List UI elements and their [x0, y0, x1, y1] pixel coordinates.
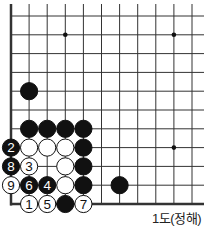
move-number: 3	[25, 159, 33, 174]
move-number: 2	[7, 140, 15, 155]
star-point-icon	[172, 33, 177, 38]
move-number: 5	[43, 197, 51, 212]
star-point-icon	[172, 145, 177, 150]
black-stone	[39, 120, 56, 137]
diagram-caption: 1도(정해)	[152, 208, 201, 226]
black-stone	[75, 177, 92, 194]
move-number: 9	[7, 178, 15, 193]
black-stone	[111, 177, 128, 194]
white-stone	[39, 139, 56, 156]
move-number: 7	[80, 197, 88, 212]
black-stone	[21, 83, 38, 100]
go-board-diagram: 283964157	[0, 0, 206, 226]
move-number: 4	[43, 178, 51, 193]
black-stone	[75, 120, 92, 137]
move-number: 6	[25, 178, 33, 193]
black-stone	[75, 158, 92, 175]
white-stone	[57, 177, 74, 194]
star-point-icon	[63, 33, 68, 38]
black-stone	[21, 120, 38, 137]
white-stone	[21, 139, 38, 156]
move-number: 1	[25, 197, 33, 212]
white-stone	[57, 139, 74, 156]
black-stone	[57, 120, 74, 137]
black-stone	[75, 139, 92, 156]
white-stone	[57, 158, 74, 175]
black-stone	[57, 195, 74, 212]
move-number: 8	[7, 159, 15, 174]
